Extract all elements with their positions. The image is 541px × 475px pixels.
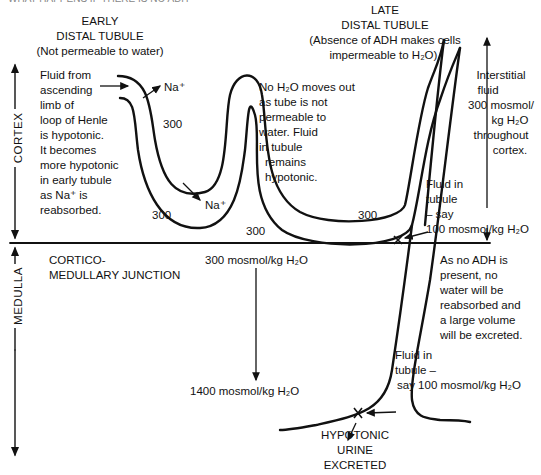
late-tubule-heading-line1: LATE <box>320 3 450 18</box>
early-tubule-heading-line1: EARLY <box>25 14 175 29</box>
value-300-d: 300 <box>358 208 377 223</box>
value-300-a: 300 <box>163 117 182 132</box>
late-tubule-heading-line2: DISTAL TUBULE <box>320 18 450 33</box>
early-tubule-heading-line2: DISTAL TUBULE <box>25 29 175 44</box>
region-medulla-label: MEDULLA <box>12 264 24 328</box>
osmolality-1400-label: 1400 mosmol/kg H₂O <box>190 384 299 399</box>
sodium-label-lower: Na⁺ <box>205 198 226 213</box>
late-tubule-note-line2: impermeable to H₂O). <box>300 48 470 63</box>
value-300-c: 300 <box>246 224 265 239</box>
value-300-b: 300 <box>152 208 171 223</box>
junction-label-line2: MEDULLARY JUNCTION <box>49 268 180 283</box>
late-tubule-note-line1: (Absence of ADH makes cells <box>300 33 470 48</box>
sodium-label-upper: Na⁺ <box>164 80 185 95</box>
osmolality-300-label: 300 mosmol/kg H₂O <box>205 253 308 268</box>
early-tubule-note: (Not permeable to water) <box>15 44 185 59</box>
junction-label-line1: CORTICO- <box>49 253 106 268</box>
diagram-canvas: WHAT HAPPENS IF THERE IS NO ADH <box>0 0 541 475</box>
region-cortex-label: CORTEX <box>12 109 24 167</box>
